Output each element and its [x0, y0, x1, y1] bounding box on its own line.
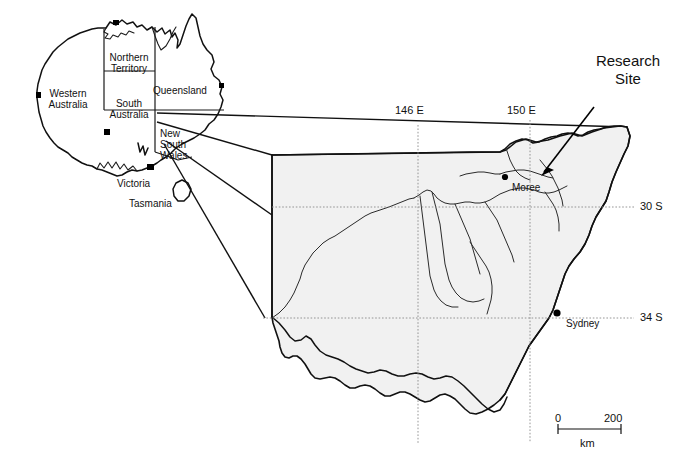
- projection-line-bottom-path: [164, 144, 265, 318]
- label-western-australia: Western Australia: [36, 88, 100, 110]
- coast-mark-north: [113, 20, 119, 25]
- map-figure: Western Australia Northern Territory Que…: [0, 0, 690, 472]
- coast-mark-south-australia: [104, 129, 110, 135]
- label-new-south-wales: New South Wales: [160, 128, 204, 162]
- label-research-site: Research Site: [573, 52, 683, 88]
- label-scale-start: 0: [555, 412, 561, 424]
- north-coast-detail-path: [104, 28, 134, 39]
- label-sydney: Sydney: [566, 318, 599, 329]
- label-moree: Moree: [512, 182, 540, 193]
- spencer-gulf-path: [138, 143, 148, 155]
- label-scale-end: 200: [604, 412, 622, 424]
- label-northern-territory: Northern Territory: [98, 52, 160, 74]
- moree-dot: [502, 174, 508, 180]
- label-latitude-30s: 30 S: [640, 200, 663, 212]
- projection-line-top-path: [157, 113, 627, 127]
- nsw-outline-path: [272, 126, 630, 414]
- label-tasmania: Tasmania: [129, 198, 193, 209]
- sydney-dot: [553, 309, 560, 316]
- label-longitude-150e: 150 E: [507, 104, 536, 116]
- scale-bar-graphic: [558, 424, 621, 434]
- label-south-australia: South Australia: [99, 98, 159, 120]
- nsw-detail-graphic: [263, 107, 634, 443]
- label-victoria: Victoria: [117, 178, 177, 189]
- label-scale-unit: km: [580, 437, 595, 449]
- label-queensland: Queensland: [153, 85, 225, 96]
- label-longitude-146e: 146 E: [395, 104, 424, 116]
- label-latitude-34s: 34 S: [640, 311, 663, 323]
- coast-mark-victoria: [147, 164, 154, 170]
